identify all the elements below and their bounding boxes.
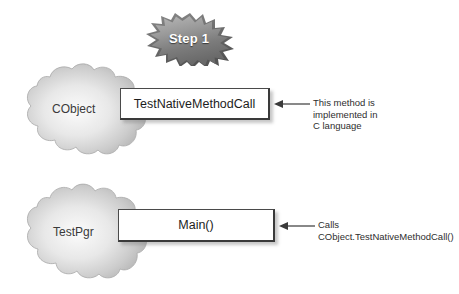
annotation-testpgr: Calls CObject.TestNativeMethodCall() — [318, 219, 454, 242]
cloud-label-testpgr: TestPgr — [53, 225, 94, 239]
annotation-line: C language — [313, 120, 377, 132]
method-box-label: Main() — [178, 218, 213, 232]
connector-arrow-cobject — [274, 96, 310, 112]
diagram-canvas: Step 1 CObject TestNativeMethodCall This — [0, 0, 459, 294]
step-badge: Step 1 — [142, 10, 238, 66]
cloud-label-cobject: CObject — [52, 102, 95, 116]
method-box-testnativemethodcall: TestNativeMethodCall — [120, 88, 270, 120]
annotation-line: implemented in — [313, 109, 377, 121]
annotation-line: CObject.TestNativeMethodCall() — [318, 231, 454, 243]
arrow-left-icon — [274, 96, 310, 112]
annotation-line: Calls — [318, 219, 454, 231]
connector-arrow-testpgr — [279, 218, 315, 234]
step-badge-label: Step 1 — [142, 10, 238, 66]
annotation-line: This method is — [313, 97, 377, 109]
arrow-left-icon — [279, 218, 315, 234]
method-box-main: Main() — [118, 209, 275, 242]
annotation-cobject: This method is implemented in C language — [313, 97, 377, 132]
method-box-label: TestNativeMethodCall — [134, 97, 256, 111]
